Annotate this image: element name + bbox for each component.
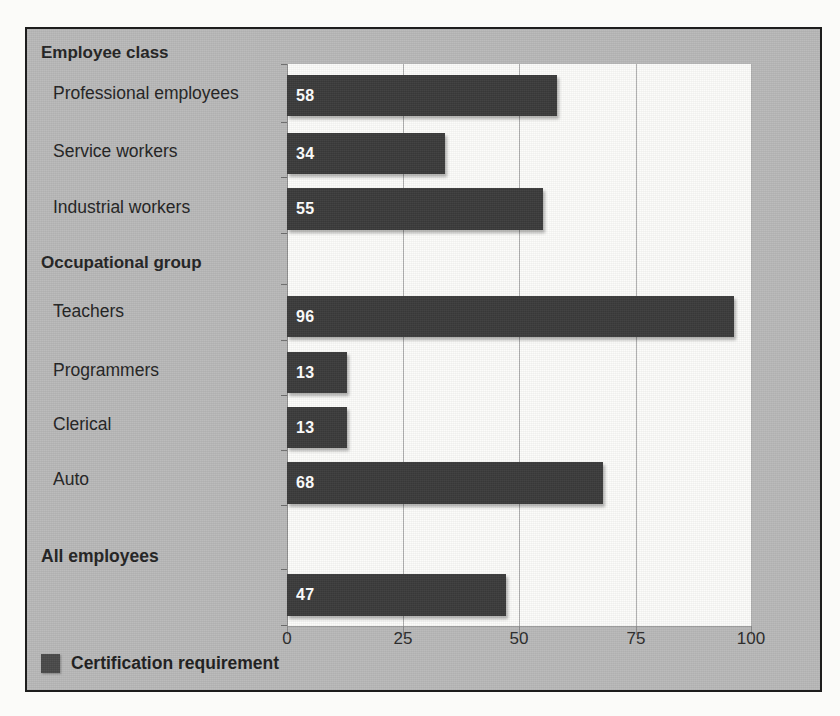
bar-value-label: 13 <box>296 418 314 436</box>
category-label-professional-employees: Professional employees <box>53 83 239 104</box>
legend-swatch-certification-requirement <box>41 654 60 673</box>
gridline-50 <box>519 64 520 626</box>
x-tick-label-100: 100 <box>737 629 765 649</box>
chart-legend: Certification requirement <box>41 653 279 674</box>
bar-industrial-workers[interactable]: 55 <box>287 188 543 230</box>
category-label-clerical: Clerical <box>53 414 111 435</box>
x-tick-label-25: 25 <box>394 629 413 649</box>
bar-professional-employees[interactable]: 58 <box>287 75 557 116</box>
gridline-75 <box>636 64 637 626</box>
plot-area: 58 34 55 96 13 13 68 47 <box>287 64 752 626</box>
category-label-service-workers: Service workers <box>53 141 177 162</box>
bar-value-label: 34 <box>296 144 314 162</box>
x-tick-label-50: 50 <box>510 629 529 649</box>
bar-value-label: 47 <box>296 586 314 604</box>
chart-panel: Employee class Professional employees Se… <box>25 27 822 692</box>
group-header-employee-class: Employee class <box>41 43 169 63</box>
category-label-auto: Auto <box>53 469 89 490</box>
page-background: Employee class Professional employees Se… <box>0 0 840 716</box>
bar-all-employees[interactable]: 47 <box>287 574 506 616</box>
bar-clerical[interactable]: 13 <box>287 407 347 448</box>
bar-value-label: 68 <box>296 474 314 492</box>
category-label-industrial-workers: Industrial workers <box>53 197 190 218</box>
bar-value-label: 58 <box>296 86 314 104</box>
category-label-all-employees: All employees <box>41 546 159 567</box>
category-label-programmers: Programmers <box>53 360 159 381</box>
legend-label-certification-requirement: Certification requirement <box>71 653 279 674</box>
gridline-100 <box>751 64 752 626</box>
bar-value-label: 13 <box>296 363 314 381</box>
x-tick-label-75: 75 <box>627 629 646 649</box>
bar-auto[interactable]: 68 <box>287 462 603 504</box>
bar-value-label: 55 <box>296 200 314 218</box>
bar-value-label: 96 <box>296 307 314 325</box>
bar-teachers[interactable]: 96 <box>287 296 734 337</box>
group-header-occupational-group: Occupational group <box>41 253 202 273</box>
bar-service-workers[interactable]: 34 <box>287 133 445 174</box>
category-label-teachers: Teachers <box>53 301 124 322</box>
bar-programmers[interactable]: 13 <box>287 352 347 393</box>
x-tick-label-0: 0 <box>282 629 291 649</box>
